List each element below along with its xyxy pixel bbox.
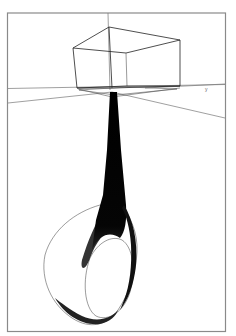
- klein-bottle-figure: y: [0, 0, 236, 336]
- axis-label-y: y: [205, 86, 208, 92]
- klein-surface: [44, 92, 137, 325]
